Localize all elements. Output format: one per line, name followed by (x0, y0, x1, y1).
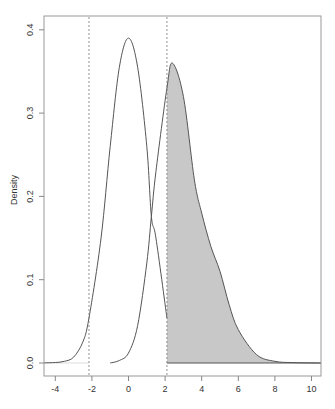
x-tick-label: 4 (199, 384, 204, 394)
y-tick-label: 0.2 (25, 190, 35, 203)
shaded-area (167, 63, 321, 363)
null-distribution-curve (44, 38, 167, 363)
y-tick-label: 0.0 (25, 357, 35, 370)
x-tick-label: 10 (306, 384, 316, 394)
x-tick-label: 6 (236, 384, 241, 394)
reference-lines (89, 17, 167, 375)
y-axis-title: Density (9, 174, 19, 205)
y-axis: 0.00.10.20.30.4 (25, 24, 44, 370)
x-axis: -4-20246810 (51, 376, 316, 394)
y-tick-label: 0.4 (25, 24, 35, 37)
x-tick-label: -4 (51, 384, 59, 394)
y-tick-label: 0.3 (25, 107, 35, 120)
x-tick-label: -2 (88, 384, 96, 394)
x-tick-label: 0 (126, 384, 131, 394)
shaded-region (45, 63, 321, 363)
y-tick-label: 0.1 (25, 273, 35, 286)
x-tick-label: 8 (272, 384, 277, 394)
x-tick-label: 2 (163, 384, 168, 394)
density-chart: -4-20246810 0.00.10.20.30.4 Density (0, 0, 335, 409)
